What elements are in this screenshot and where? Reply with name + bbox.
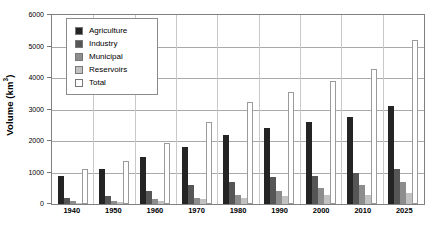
y-axis-tick-label: 2000 — [28, 137, 44, 144]
x-axis-tick-label-1990: 1990 — [259, 206, 301, 215]
group-separator — [300, 15, 301, 204]
bar-group — [176, 15, 217, 204]
legend-label: Total — [89, 78, 106, 87]
bar-total-2025[interactable] — [412, 40, 418, 204]
bar-group — [217, 15, 258, 204]
bar-group — [383, 15, 424, 204]
group-separator — [217, 15, 218, 204]
legend-swatch-municipal-icon — [75, 53, 83, 61]
bar-chart: Volume (km3) 0100020003000400050006000 1… — [0, 0, 431, 233]
bar-total-1970[interactable] — [206, 122, 212, 204]
y-axis-tick-label: 5000 — [28, 42, 44, 49]
legend-swatch-total-icon — [75, 79, 83, 87]
y-axis-tick-labels: 0100020003000400050006000 — [18, 8, 46, 204]
bar-total-1950[interactable] — [123, 161, 129, 204]
y-axis-tick-label: 4000 — [28, 74, 44, 81]
group-separator — [383, 15, 384, 204]
y-axis-title-exponent: 3 — [3, 78, 10, 82]
y-axis-tick-label: 3000 — [28, 105, 44, 112]
x-axis-tick-label-2025: 2025 — [384, 206, 426, 215]
y-axis-tick-label: 6000 — [28, 11, 44, 18]
x-axis-tick-label-1960: 1960 — [134, 206, 176, 215]
legend-swatch-reservoirs-icon — [75, 66, 83, 74]
bar-total-1990[interactable] — [288, 92, 294, 204]
legend-item-total[interactable]: Total — [75, 76, 151, 89]
x-axis-tick-label-2000: 2000 — [300, 206, 342, 215]
bar-total-1960[interactable] — [164, 143, 170, 204]
legend-label: Municipal — [89, 52, 123, 61]
y-axis-tick-label: 1000 — [28, 168, 44, 175]
legend-swatch-industry-icon — [75, 40, 83, 48]
legend-label: Reservoirs — [89, 65, 127, 74]
legend-swatch-agriculture-icon — [75, 27, 83, 35]
legend-item-agriculture[interactable]: Agriculture — [75, 24, 151, 37]
y-axis-title-text: Volume (km3) — [3, 74, 15, 135]
y-axis-tick-label: 0 — [40, 200, 44, 207]
x-axis-tick-label-2010: 2010 — [342, 206, 384, 215]
y-axis-title-close: ) — [4, 74, 15, 77]
legend-item-industry[interactable]: Industry — [75, 37, 151, 50]
x-axis-tick-label-1950: 1950 — [93, 206, 135, 215]
bar-group — [259, 15, 300, 204]
legend-label: Industry — [89, 39, 117, 48]
group-separator — [176, 15, 177, 204]
y-axis-title: Volume (km3) — [0, 0, 18, 210]
legend-item-municipal[interactable]: Municipal — [75, 50, 151, 63]
y-axis-title-base: Volume (km — [4, 81, 15, 135]
group-separator — [341, 15, 342, 204]
legend-label: Agriculture — [89, 26, 127, 35]
bar-total-1940[interactable] — [82, 169, 88, 204]
bar-total-1980[interactable] — [247, 102, 253, 204]
group-separator — [259, 15, 260, 204]
bar-total-2000[interactable] — [330, 81, 336, 204]
bar-group — [300, 15, 341, 204]
x-axis-tick-label-1980: 1980 — [217, 206, 259, 215]
x-axis-tick-label-1970: 1970 — [176, 206, 218, 215]
legend-item-reservoirs[interactable]: Reservoirs — [75, 63, 151, 76]
bar-group — [341, 15, 382, 204]
x-axis-tick-label-1940: 1940 — [51, 206, 93, 215]
chart-legend: AgricultureIndustryMunicipalReservoirsTo… — [66, 18, 158, 95]
x-axis-tick-labels: 194019501960197019801990200020102025 — [51, 206, 425, 215]
bar-total-2010[interactable] — [371, 69, 377, 204]
